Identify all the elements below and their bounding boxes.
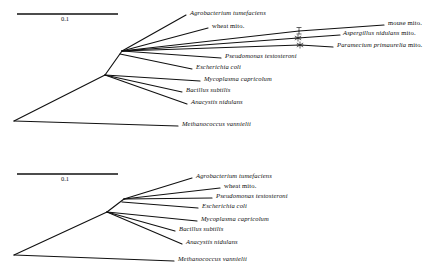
branch-to-anacystis-2 [107,212,182,244]
taxon-label-escherichia-2: Escherichia coli [202,203,247,210]
taxon-text-paramecium: Paramecium primaurelia [337,41,406,48]
taxon-label-mouse-mito: mouse mito. [388,20,422,27]
taxon-suffix-paramecium: mito. [406,41,422,48]
branch-to-mycoplasma-2 [107,212,197,221]
branch-root2-to-bacteria [14,212,107,255]
branch-to-wheat-mito-2 [124,188,220,199]
node-marker-paramecium [297,42,304,49]
taxon-text-wheat-mito-2: wheat mito. [224,182,256,189]
taxon-text-aspergillus: Aspergillus nidulans [343,29,400,36]
taxon-label-pseudomonas-2: Pseudomonas testosteroni [216,193,288,200]
branch-root2-to-methanococcus [14,255,174,261]
branch-bacteria2-to-proteo [107,199,124,212]
taxon-suffix-aspergillus: mito. [400,29,416,36]
taxon-label-methanococcus: Methanococcus vannielii [182,121,251,128]
taxon-label-wheat-mito-2: wheat mito. [224,183,256,190]
taxon-label-mycoplasma-2: Mycoplasma capricolum [201,216,269,223]
taxon-text-mouse-mito: mouse mito. [388,19,422,26]
taxon-label-mycoplasma: Mycoplasma capricolum [204,76,272,83]
branch-to-agrobacterium-2 [124,178,192,199]
taxon-label-escherichia: Escherichia coli [196,64,241,71]
scale-label-lower: 0.1 [61,176,69,182]
taxon-label-agrobacterium-2: Agrobacterium tumefaciens [196,173,272,180]
taxon-label-bacillus-2: Bacillus subtilis [179,226,223,233]
taxon-label-bacillus: Bacillus subtilis [186,87,230,94]
taxon-label-aspergillus-mito: Aspergillus nidulans mito. [343,30,416,37]
branch-to-agrobacterium [122,15,186,51]
taxon-label-wheat-mito: wheat mito. [212,23,244,30]
branch-to-escherichia [120,54,192,69]
taxon-label-pseudomonas: Pseudomonas testosteroni [225,53,297,60]
taxon-label-anacystis: Anacystis nidulans [191,99,243,106]
taxon-text-wheat-mito: wheat mito. [212,22,244,29]
branch-to-pseudomonas-2 [124,198,212,199]
branch-root-to-methanococcus [14,121,178,126]
branch-mito-node-2-to-aspergillus [298,35,340,38]
branch-root-to-bacteria [14,75,105,121]
phylogenetic-tree-figure: 0.1 0.1 Agrobacterium tumefaciens wheat … [0,0,442,277]
taxon-label-methanococcus-2: Methanococcus vannielii [178,256,247,263]
branch-to-escherichia-2 [122,202,198,208]
node-marker-aspergillus [295,35,302,42]
lower-tree-group [14,174,220,261]
scale-label-upper: 0.1 [61,16,69,22]
branch-mito-node-3-to-paramecium [300,45,333,47]
taxon-label-agrobacterium: Agrobacterium tumefaciens [190,10,266,17]
taxon-label-paramecium-mito: Paramecium primaurelia mito. [337,42,422,49]
taxon-label-anacystis-2: Anacystis nidulans [186,239,238,246]
branch-bacteria-to-proteo [105,51,122,75]
